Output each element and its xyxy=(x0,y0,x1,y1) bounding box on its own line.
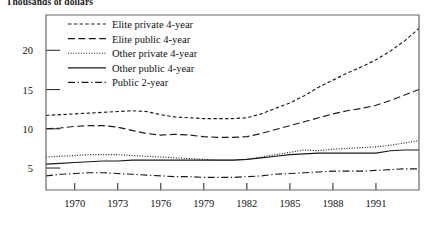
chart-figure: Thousands of dollars 5101520 19701973197… xyxy=(0,0,425,228)
y-axis-title: Thousands of dollars xyxy=(6,0,93,7)
x-tick-label: 1979 xyxy=(193,198,214,209)
legend-item-label: Public 2-year xyxy=(112,77,169,88)
y-axis-tick-marks xyxy=(46,50,60,168)
y-tick-label: 5 xyxy=(28,163,33,174)
y-tick-label: 20 xyxy=(23,45,34,56)
legend-item-label: Other private 4-year xyxy=(112,48,198,59)
x-axis-tick-marks xyxy=(75,183,376,190)
series-line xyxy=(46,141,419,161)
x-tick-label: 1973 xyxy=(107,198,128,209)
chart-series-group xyxy=(46,28,419,177)
series-line xyxy=(46,150,419,164)
series-line xyxy=(46,90,419,138)
series-line xyxy=(46,28,419,118)
x-tick-label: 1985 xyxy=(279,198,300,209)
legend-item-label: Elite private 4-year xyxy=(112,19,194,30)
chart-legend: Elite private 4-yearElite public 4-yearO… xyxy=(68,19,198,88)
x-axis-tick-labels: 19701973197619791982198519881991 xyxy=(64,198,386,209)
legend-item-label: Other public 4-year xyxy=(112,63,195,74)
line-chart: 5101520 19701973197619791982198519881991… xyxy=(0,0,425,228)
plot-frame xyxy=(46,15,419,190)
y-tick-label: 15 xyxy=(23,85,34,96)
legend-item-label: Elite public 4-year xyxy=(112,34,191,45)
x-tick-label: 1982 xyxy=(236,198,257,209)
x-tick-label: 1988 xyxy=(322,198,343,209)
x-tick-label: 1991 xyxy=(365,198,386,209)
x-tick-label: 1970 xyxy=(64,198,85,209)
y-axis-tick-labels: 5101520 xyxy=(23,45,34,174)
y-tick-label: 10 xyxy=(23,124,34,135)
series-line xyxy=(46,169,419,178)
x-tick-label: 1976 xyxy=(150,198,171,209)
